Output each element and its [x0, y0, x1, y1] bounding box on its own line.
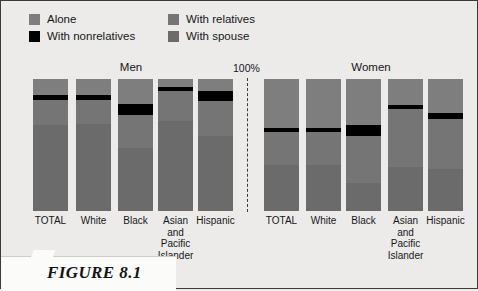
bar-segment-nonrelatives: [198, 91, 233, 102]
bar-segment-spouse: [33, 125, 68, 211]
bar-segment-alone: [158, 79, 193, 87]
bar-segment-alone: [306, 79, 341, 128]
bar-segment-relatives: [198, 101, 233, 135]
bar-segment-relatives: [346, 136, 381, 184]
bar-segment-alone: [118, 79, 153, 104]
bar-men-black: [118, 79, 153, 211]
bar-segment-spouse: [198, 136, 233, 211]
x-axis-label-women-4: Hispanic: [417, 215, 475, 227]
bar-men-asian-and-pacific-islander: [158, 79, 193, 211]
bar-segment-relatives: [76, 100, 111, 124]
bar-women-hispanic: [428, 79, 463, 211]
bar-segment-spouse: [306, 165, 341, 211]
bar-segment-relatives: [264, 132, 299, 165]
bar-segment-relatives: [306, 132, 341, 165]
bar-segment-spouse: [158, 121, 193, 211]
bar-women-white: [306, 79, 341, 211]
bar-segment-spouse: [118, 148, 153, 211]
bar-women-total: [264, 79, 299, 211]
bar-segment-alone: [264, 79, 299, 128]
bar-segment-alone: [76, 79, 111, 95]
chart-plot-area: Men Women 100% TOTALWhiteBlackAsianandPa…: [1, 1, 477, 288]
bar-men-white: [76, 79, 111, 211]
bar-segment-spouse: [388, 167, 423, 211]
bar-segment-alone: [346, 79, 381, 125]
bar-segment-spouse: [428, 169, 463, 211]
bar-men-total: [33, 79, 68, 211]
bar-segment-alone: [33, 79, 68, 95]
figure-caption: FIGURE 8.1: [47, 263, 142, 283]
bar-segment-relatives: [158, 91, 193, 121]
bar-segment-nonrelatives: [118, 104, 153, 115]
bar-segment-relatives: [388, 109, 423, 167]
group-title-women: Women: [311, 61, 431, 73]
bar-segment-spouse: [76, 124, 111, 211]
bar-segment-relatives: [118, 115, 153, 148]
bar-men-hispanic: [198, 79, 233, 211]
panel-divider: [247, 78, 248, 212]
bar-segment-relatives: [33, 100, 68, 125]
bar-women-black: [346, 79, 381, 211]
bar-segment-nonrelatives: [346, 125, 381, 136]
bar-segment-alone: [428, 79, 463, 113]
bar-segment-alone: [198, 79, 233, 91]
bar-segment-relatives: [428, 119, 463, 169]
bar-women-asian-and-pacific-islander: [388, 79, 423, 211]
bar-segment-spouse: [264, 165, 299, 211]
group-title-men: Men: [71, 61, 191, 73]
x-axis-label-men-4: Hispanic: [187, 215, 245, 227]
bar-segment-alone: [388, 79, 423, 105]
bar-segment-spouse: [346, 183, 381, 211]
axis-max-label: 100%: [233, 62, 260, 74]
